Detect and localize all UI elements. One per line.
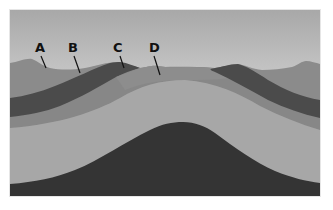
anticline-diagram: A B C D [0, 0, 333, 210]
label-d-text: D [149, 40, 160, 55]
label-c-text: C [113, 40, 123, 55]
label-b-text: B [68, 40, 78, 55]
label-a-text: A [35, 40, 45, 55]
